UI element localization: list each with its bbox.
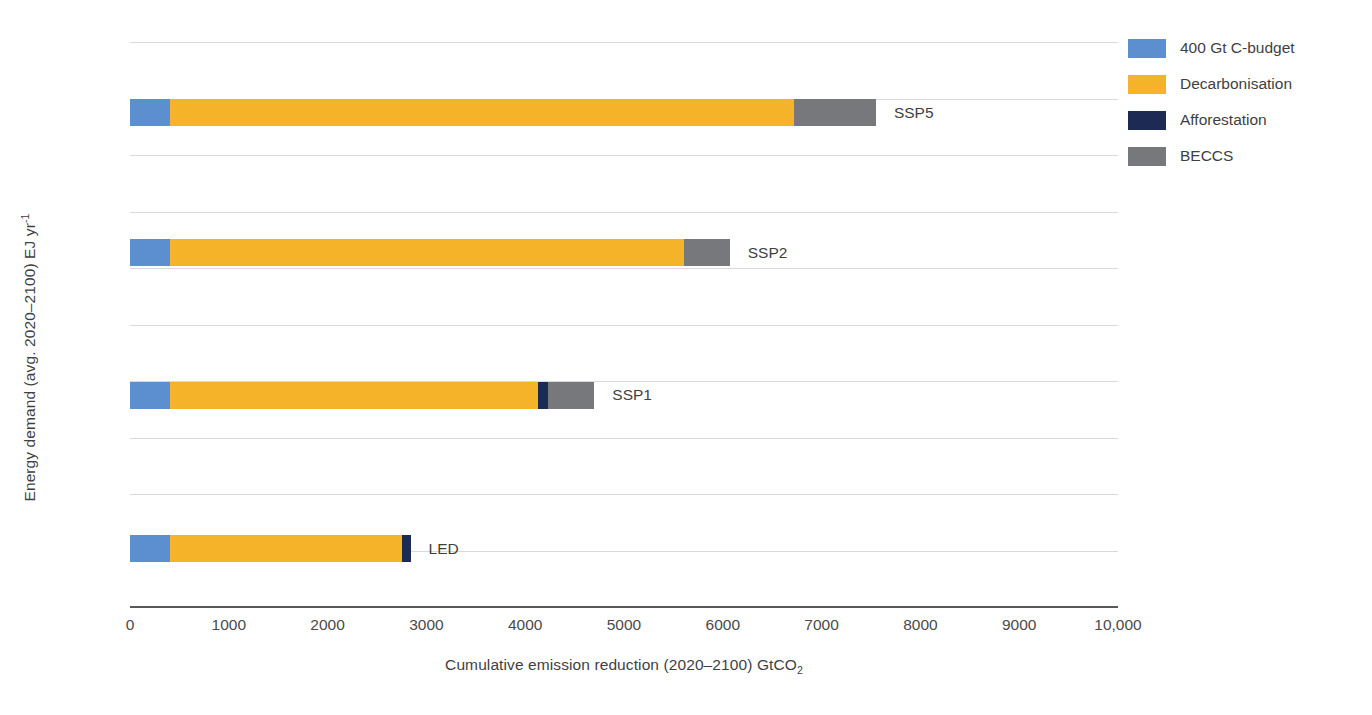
bar-group-ssp1[interactable]: SSP1 (130, 382, 1118, 409)
gridline (130, 42, 1118, 43)
legend-label: Decarbonisation (1180, 75, 1292, 93)
gridline (130, 325, 1118, 326)
bar-segment-afforestation[interactable] (402, 535, 411, 562)
bar-group-ssp5[interactable]: SSP5 (130, 99, 1118, 126)
bar-segment-400-gt-c-budget[interactable] (130, 535, 170, 562)
x-axis-line (130, 606, 1118, 608)
legend-label: 400 Gt C-budget (1180, 39, 1295, 57)
bar-segment-beccs[interactable] (684, 239, 729, 266)
bar-segment-400-gt-c-budget[interactable] (130, 382, 170, 409)
plot-area: 0100200300400500600700800900100001000200… (130, 42, 1118, 607)
legend-item[interactable]: Afforestation (1128, 102, 1368, 138)
bar-segment-400-gt-c-budget[interactable] (130, 99, 170, 126)
bar-label-ssp5: SSP5 (894, 104, 934, 122)
gridline (130, 268, 1118, 269)
legend-item[interactable]: Decarbonisation (1128, 66, 1368, 102)
bar-segment-afforestation[interactable] (538, 382, 548, 409)
legend-label: BECCS (1180, 147, 1233, 165)
legend-label: Afforestation (1180, 111, 1267, 129)
bar-segment-400-gt-c-budget[interactable] (130, 239, 170, 266)
bar-segment-beccs[interactable] (548, 382, 594, 409)
y-axis-title: Energy demand (avg. 2020–2100) EJ yr-1 (34, 0, 68, 715)
legend-swatch-beccs (1128, 147, 1166, 166)
gridline (130, 438, 1118, 439)
x-axis-title-text: Cumulative emission reduction (2020–2100… (445, 656, 797, 673)
legend-swatch-afforestation (1128, 111, 1166, 130)
legend-swatch-400-gt-c-budget (1128, 39, 1166, 58)
bar-segment-decarbonisation[interactable] (170, 99, 794, 126)
gridline (130, 494, 1118, 495)
bar-segment-decarbonisation[interactable] (170, 382, 539, 409)
legend-item[interactable]: BECCS (1128, 138, 1368, 174)
gridline (130, 155, 1118, 156)
gridline (130, 212, 1118, 213)
bar-label-ssp2: SSP2 (748, 244, 788, 262)
bar-label-ssp1: SSP1 (612, 386, 652, 404)
legend: 400 Gt C-budgetDecarbonisationAfforestat… (1128, 30, 1368, 174)
legend-swatch-decarbonisation (1128, 75, 1166, 94)
legend-item[interactable]: 400 Gt C-budget (1128, 30, 1368, 66)
x-axis-tick-label: 10,000 (1058, 616, 1178, 634)
bar-segment-decarbonisation[interactable] (170, 239, 685, 266)
bar-label-led: LED (429, 540, 459, 558)
x-axis-title: Cumulative emission reduction (2020–2100… (130, 656, 1118, 676)
x-axis-title-subscript: 2 (797, 664, 803, 676)
bar-segment-beccs[interactable] (794, 99, 876, 126)
chart-figure: Energy demand (avg. 2020–2100) EJ yr-1 0… (0, 0, 1372, 715)
bar-group-led[interactable]: LED (130, 535, 1118, 562)
bar-segment-decarbonisation[interactable] (170, 535, 402, 562)
y-axis-title-text: Energy demand (avg. 2020–2100) EJ yr (21, 223, 38, 501)
y-axis-title-exponent: -1 (19, 213, 31, 223)
bar-group-ssp2[interactable]: SSP2 (130, 239, 1118, 266)
